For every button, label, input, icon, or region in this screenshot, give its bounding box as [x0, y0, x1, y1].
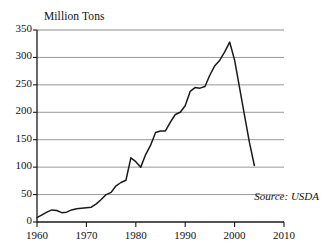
x-tick-label-1990: 1990	[165, 229, 205, 241]
data-series-group	[37, 42, 254, 218]
source-annotation: Source: USDA	[254, 190, 319, 202]
x-tick-label-2010: 2010	[264, 229, 304, 241]
x-tick-label-1980: 1980	[116, 229, 156, 241]
series-line-0	[37, 42, 254, 218]
y-tick-label-200: 200	[2, 104, 32, 116]
y-tick-label-300: 300	[2, 49, 32, 61]
x-tick-label-1970: 1970	[66, 229, 106, 241]
y-tick-label-350: 350	[2, 22, 32, 34]
y-tick-label-150: 150	[2, 132, 32, 144]
y-tick-label-50: 50	[2, 187, 32, 199]
x-tick-label-2000: 2000	[215, 229, 255, 241]
y-tick-label-0: 0	[2, 214, 32, 226]
y-tick-label-250: 250	[2, 77, 32, 89]
gridlines	[37, 30, 284, 195]
plot-area	[0, 0, 331, 251]
x-tick-label-1960: 1960	[17, 229, 57, 241]
chart-figure: Million Tons 050100150200250300350 19601…	[0, 0, 331, 251]
y-tick-label-100: 100	[2, 159, 32, 171]
